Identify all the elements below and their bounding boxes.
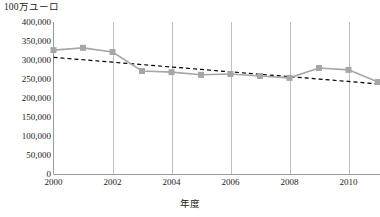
data-point-marker — [169, 69, 175, 75]
x-axis-tick-label: 2002 — [104, 177, 122, 187]
data-point-marker — [287, 75, 293, 81]
data-point-marker — [198, 72, 204, 78]
gridlines — [114, 22, 350, 174]
x-axis-tick-label: 2006 — [222, 177, 240, 187]
x-axis-title: 年度 — [0, 198, 380, 210]
data-point-marker — [51, 47, 57, 53]
trendline — [54, 57, 379, 84]
trendline-path — [54, 57, 379, 84]
data-point-marker — [316, 65, 322, 71]
data-point-marker — [80, 45, 86, 51]
chart-container: 100万ユーロ 400,000 350,000 300,000 250,000 … — [0, 0, 380, 217]
data-point-marker — [228, 71, 234, 77]
series-path — [54, 48, 379, 82]
data-point-marker — [375, 79, 380, 85]
x-axis-tick-label: 2004 — [163, 177, 181, 187]
axis-lines — [54, 22, 380, 175]
data-point-marker — [139, 68, 145, 74]
x-axis-tick-label: 2010 — [340, 177, 358, 187]
data-point-marker — [257, 73, 263, 79]
x-axis-tick-label: 2000 — [45, 177, 63, 187]
data-series-line — [54, 48, 379, 82]
data-point-marker — [110, 49, 116, 55]
data-point-marker — [346, 67, 352, 73]
x-axis-tick-label: 2008 — [281, 177, 299, 187]
